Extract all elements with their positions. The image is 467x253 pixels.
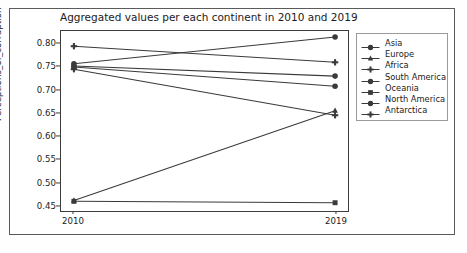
series-africa bbox=[71, 66, 339, 118]
y-tick-mark bbox=[56, 136, 60, 137]
y-axis-tick-labels: 0.450.500.550.600.650.700.750.80 bbox=[23, 30, 56, 212]
x-tick-label: 2010 bbox=[62, 216, 84, 226]
x-tick-label: 2019 bbox=[325, 216, 347, 226]
legend-item-label: Africa bbox=[385, 60, 409, 71]
y-tick-label: 0.75 bbox=[37, 61, 56, 71]
y-axis-label: Perceptions_of_corruption bbox=[0, 7, 3, 121]
legend-marker-plus-icon bbox=[360, 105, 381, 116]
series-lines bbox=[61, 31, 348, 211]
legend-item-antarctica[interactable]: Antarctica bbox=[360, 105, 443, 116]
y-tick-mark bbox=[56, 42, 60, 43]
x-tick-mark bbox=[335, 211, 336, 215]
legend-item-label: South America bbox=[385, 72, 446, 83]
series-asia bbox=[71, 34, 338, 66]
x-axis-tick-labels: 20102019 bbox=[60, 214, 349, 230]
legend-marker-circle-icon bbox=[360, 38, 381, 49]
legend-marker-square-icon bbox=[360, 83, 381, 94]
legend-item-label: North America bbox=[385, 94, 445, 105]
legend-marker-circle-icon bbox=[360, 72, 381, 83]
figure-canvas: Aggregated values per each continent in … bbox=[0, 0, 467, 253]
y-tick-label: 0.50 bbox=[37, 178, 56, 188]
y-tick-label: 0.55 bbox=[37, 154, 56, 164]
legend-item-europe[interactable]: Europe bbox=[360, 49, 443, 60]
x-tick-mark bbox=[72, 211, 73, 215]
legend-item-label: Europe bbox=[385, 49, 414, 60]
y-tick-mark bbox=[56, 66, 60, 67]
legend-item-north-america[interactable]: North America bbox=[360, 94, 443, 105]
legend-item-south-america[interactable]: South America bbox=[360, 72, 443, 83]
legend-item-label: Oceania bbox=[385, 83, 419, 94]
legend-item-label: Antarctica bbox=[385, 105, 427, 116]
y-tick-mark bbox=[56, 112, 60, 113]
chart-legend: AsiaEuropeAfricaSouth AmericaOceaniaNort… bbox=[356, 33, 448, 121]
y-tick-mark bbox=[56, 89, 60, 90]
series-europe bbox=[71, 108, 338, 203]
y-tick-label: 0.70 bbox=[37, 85, 56, 95]
series-oceania bbox=[71, 199, 337, 205]
y-tick-label: 0.60 bbox=[37, 131, 56, 141]
y-tick-label: 0.45 bbox=[37, 201, 56, 211]
y-tick-mark bbox=[56, 182, 60, 183]
legend-item-asia[interactable]: Asia bbox=[360, 38, 443, 49]
y-tick-label: 0.80 bbox=[37, 38, 56, 48]
plot-area bbox=[60, 30, 349, 212]
legend-marker-circle-icon bbox=[360, 94, 381, 105]
legend-marker-triangle-icon bbox=[360, 49, 381, 60]
legend-item-oceania[interactable]: Oceania bbox=[360, 83, 443, 94]
legend-item-label: Asia bbox=[385, 38, 402, 49]
y-tick-label: 0.65 bbox=[37, 108, 56, 118]
page-title: Aggregated values per each continent in … bbox=[60, 11, 350, 23]
legend-marker-plus-icon bbox=[360, 60, 381, 71]
y-tick-mark bbox=[56, 159, 60, 160]
y-tick-mark bbox=[56, 205, 60, 206]
series-antarctica bbox=[71, 43, 339, 65]
legend-item-africa[interactable]: Africa bbox=[360, 60, 443, 71]
